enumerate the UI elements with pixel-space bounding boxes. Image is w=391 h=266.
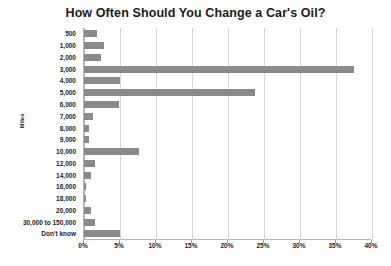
- y-axis-label: 2,000: [0, 52, 80, 64]
- y-axis-label: Don't know: [0, 228, 80, 240]
- bar-row: [84, 228, 371, 240]
- y-axis-label: 500: [0, 28, 80, 40]
- bar: [84, 172, 91, 179]
- bar: [84, 219, 95, 226]
- bar-series: [84, 28, 371, 239]
- y-axis-label: 20,000: [0, 204, 80, 216]
- bar-row: [84, 216, 371, 228]
- bar: [84, 183, 86, 190]
- y-axis-label: 7,000: [0, 110, 80, 122]
- x-axis-label: 15%: [184, 242, 197, 249]
- y-axis-label: 16,000: [0, 181, 80, 193]
- gridline-40%: [372, 28, 373, 240]
- bar: [84, 160, 95, 167]
- bar-row: [84, 204, 371, 216]
- x-axis-label: 30%: [292, 242, 305, 249]
- bar-row: [84, 134, 371, 146]
- bar-row: [84, 87, 371, 99]
- x-axis-label: 25%: [256, 242, 269, 249]
- bar-row: [84, 122, 371, 134]
- y-axis-label: 30,000 to 150,000: [0, 216, 80, 228]
- bar: [84, 54, 101, 61]
- bar: [84, 77, 120, 84]
- bar: [84, 30, 97, 37]
- bar: [84, 148, 139, 155]
- y-axis-label: 12,000: [0, 157, 80, 169]
- bar-row: [84, 52, 371, 64]
- bar: [84, 42, 104, 49]
- bar: [84, 113, 93, 120]
- y-axis-label: 14,000: [0, 169, 80, 181]
- y-axis-label: 10,000: [0, 146, 80, 158]
- y-axis-label: 9,000: [0, 134, 80, 146]
- bar-row: [84, 157, 371, 169]
- y-axis-label: 6,000: [0, 99, 80, 111]
- bar: [84, 89, 255, 96]
- y-axis-label: 1,000: [0, 40, 80, 52]
- x-axis-tick-labels: 0%5%10%15%20%25%30%35%40%: [83, 242, 371, 254]
- y-axis-tick-labels: 5001,0002,0003,0004,0005,0006,0007,0008,…: [0, 28, 80, 240]
- bar-row: [84, 169, 371, 181]
- x-axis-label: 5%: [114, 242, 123, 249]
- bar: [84, 207, 91, 214]
- y-axis-label: 3,000: [0, 63, 80, 75]
- plot-area: [83, 28, 371, 240]
- bar-row: [84, 75, 371, 87]
- bar-row: [84, 63, 371, 75]
- y-axis-label: 18,000: [0, 193, 80, 205]
- bar: [84, 101, 119, 108]
- x-axis-label: 0%: [78, 242, 87, 249]
- bar-chart: How Often Should You Change a Car's Oil?…: [0, 0, 391, 266]
- bar-row: [84, 110, 371, 122]
- bar: [84, 125, 89, 132]
- y-axis-label: 5,000: [0, 87, 80, 99]
- bar-row: [84, 99, 371, 111]
- chart-title: How Often Should You Change a Car's Oil?: [0, 6, 391, 20]
- bar-row: [84, 193, 371, 205]
- bar: [84, 136, 89, 143]
- bar: [84, 230, 120, 237]
- x-axis-label: 35%: [328, 242, 341, 249]
- bar-row: [84, 146, 371, 158]
- x-axis-label: 40%: [364, 242, 377, 249]
- x-axis-label: 10%: [148, 242, 161, 249]
- bar-row: [84, 28, 371, 40]
- bar-row: [84, 181, 371, 193]
- x-axis-label: 20%: [220, 242, 233, 249]
- bar: [84, 195, 86, 202]
- y-axis-label: 4,000: [0, 75, 80, 87]
- bar-row: [84, 40, 371, 52]
- bar: [84, 66, 354, 73]
- y-axis-label: 8,000: [0, 122, 80, 134]
